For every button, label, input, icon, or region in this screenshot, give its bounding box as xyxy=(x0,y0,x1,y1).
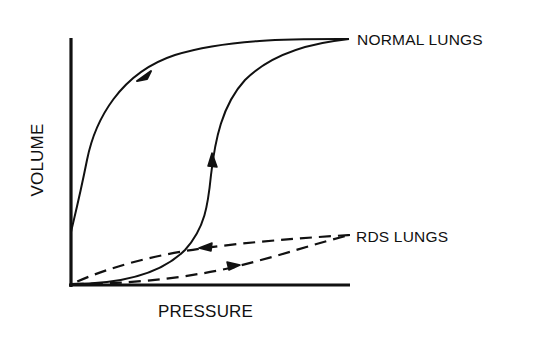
y-axis-label: VOLUME xyxy=(28,124,48,197)
normal-lungs-label: NORMAL LUNGS xyxy=(357,31,483,49)
rds-lower-arrow-icon xyxy=(227,262,240,270)
normal-lungs-deflation-curve xyxy=(71,39,349,232)
rds-upper-arrow-icon xyxy=(199,243,212,251)
rds-lungs-upper-curve xyxy=(72,235,350,284)
x-axis-label: PRESSURE xyxy=(158,302,253,322)
inflation-arrow-icon xyxy=(208,153,217,167)
diagram-canvas xyxy=(0,0,541,338)
rds-lungs-label: RDS LUNGS xyxy=(356,228,448,246)
rds-lungs-lower-curve xyxy=(72,235,350,284)
pressure-volume-diagram: NORMAL LUNGS RDS LUNGS PRESSURE VOLUME xyxy=(0,0,541,338)
